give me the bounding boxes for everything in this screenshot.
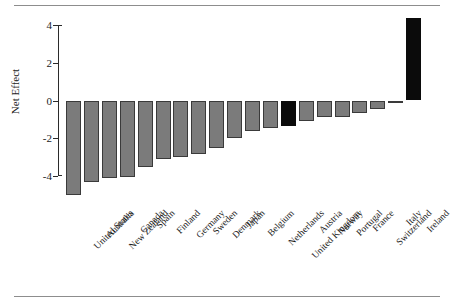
bar	[406, 18, 421, 100]
bar	[138, 101, 153, 167]
bar	[173, 101, 188, 158]
bar	[120, 101, 135, 177]
bar	[191, 101, 206, 155]
bar	[209, 101, 224, 148]
bar	[370, 101, 385, 109]
plot-area: Net Effect 420-2-4 United StatesAustrali…	[0, 0, 454, 305]
bar	[299, 101, 314, 122]
bar	[388, 101, 403, 103]
bar	[84, 101, 99, 182]
bar	[102, 101, 117, 178]
bar	[263, 101, 278, 128]
bar	[66, 101, 81, 195]
bar	[156, 101, 171, 160]
bar	[227, 101, 242, 139]
bar	[317, 101, 332, 117]
bar	[281, 101, 296, 126]
figure: Net Effect 420-2-4 United StatesAustrali…	[0, 0, 454, 305]
bar	[335, 101, 350, 117]
bar	[245, 101, 260, 131]
bar	[352, 101, 367, 113]
bar-series	[0, 0, 454, 305]
